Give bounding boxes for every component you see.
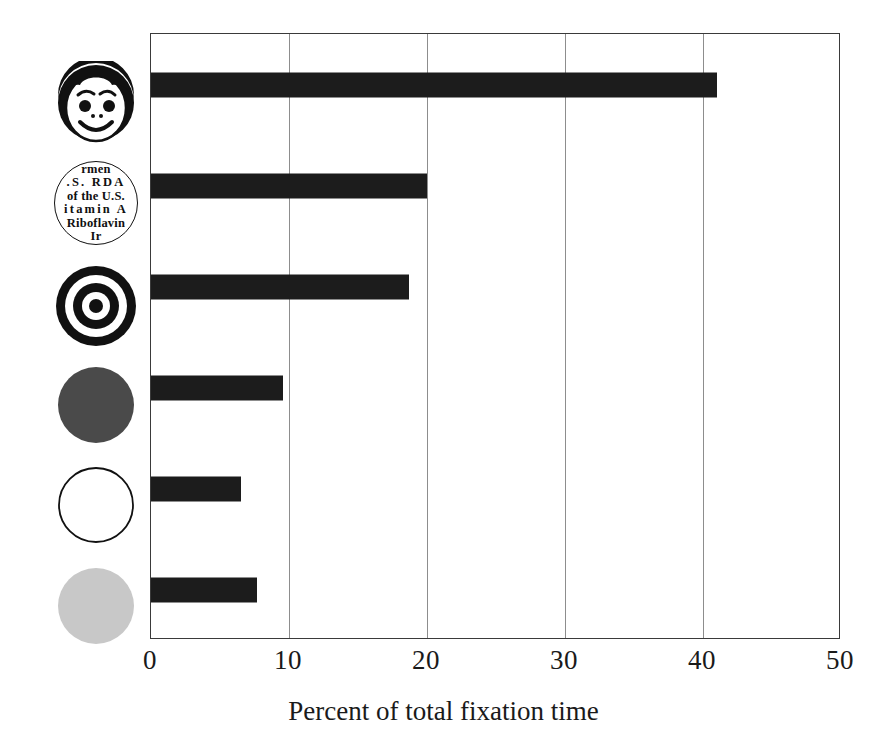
- bar-row: [151, 337, 839, 438]
- bar-nutrition-label: [151, 173, 427, 198]
- x-tick-label: 20: [396, 645, 456, 676]
- nutrition-label-icon: rmen.S. RDAof the U.S.itamin ARiboflavin…: [52, 159, 140, 247]
- nutrition-label-line: itamin A: [54, 203, 138, 216]
- dark-gray-circle-icon: [52, 361, 140, 449]
- smiling-face-icon: [52, 59, 140, 147]
- nutrition-label-line: Riboflavin: [54, 216, 138, 229]
- x-tick-label: 30: [534, 645, 594, 676]
- bar-row: [151, 539, 839, 640]
- white-circle-icon: [52, 461, 140, 549]
- light-gray-circle-icon: [52, 562, 140, 650]
- nutrition-label-line: of the U.S.: [54, 190, 138, 203]
- nutrition-label-line: Ir: [54, 230, 138, 243]
- plot-area: [150, 33, 840, 639]
- bar-smiling-face: [151, 72, 717, 97]
- nutrition-label-line: rmen: [54, 163, 138, 176]
- x-axis-title: Percent of total fixation time: [0, 696, 887, 727]
- bar-row: [151, 236, 839, 337]
- x-tick-label: 40: [672, 645, 732, 676]
- x-tick-label: 10: [258, 645, 318, 676]
- bar-row: [151, 135, 839, 236]
- x-tick-label: 50: [810, 645, 870, 676]
- bar-row: [151, 34, 839, 135]
- bar-bullseye-target: [151, 274, 409, 299]
- bullseye-target-icon: [52, 262, 140, 350]
- nutrition-label-line: .S. RDA: [54, 176, 138, 189]
- bar-dark-gray-circle: [151, 375, 283, 400]
- bar-chart: 01020304050 Percent of total fixation ti…: [0, 0, 887, 749]
- bar-row: [151, 438, 839, 539]
- bar-white-circle: [151, 476, 241, 501]
- bar-light-gray-circle: [151, 577, 257, 602]
